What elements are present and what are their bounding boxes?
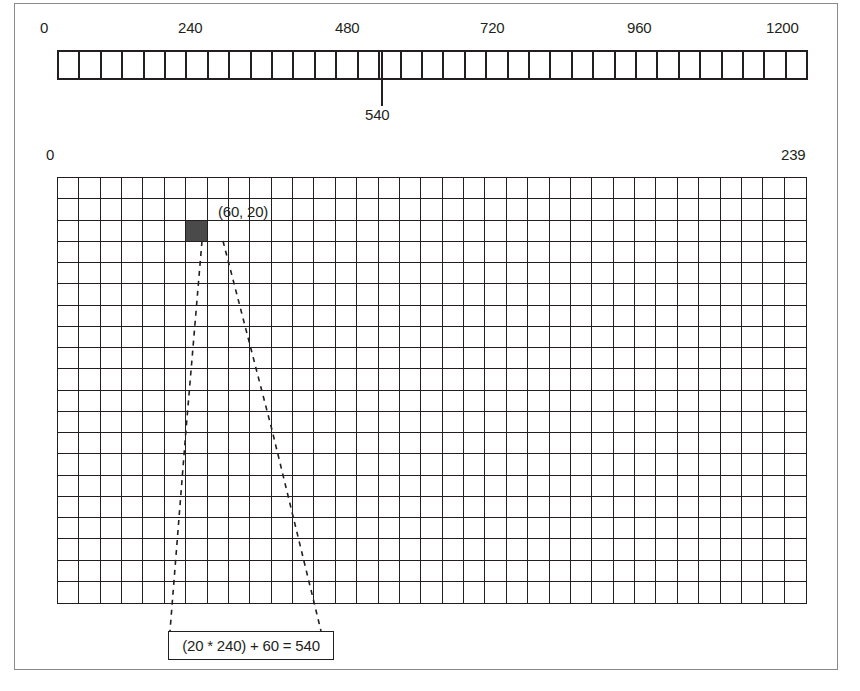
grid-cell bbox=[699, 327, 720, 348]
array-cell bbox=[252, 52, 273, 78]
grid-cell bbox=[678, 497, 699, 518]
grid-cell bbox=[101, 433, 122, 454]
grid-cell bbox=[272, 518, 293, 539]
array-cell bbox=[594, 52, 615, 78]
grid-cell bbox=[699, 221, 720, 242]
grid-cell bbox=[293, 242, 314, 263]
grid-cell bbox=[550, 327, 571, 348]
grid-cell bbox=[421, 476, 442, 497]
grid-cell bbox=[528, 391, 549, 412]
grid-cell bbox=[379, 221, 400, 242]
array-cell bbox=[59, 52, 80, 78]
grid-cell bbox=[314, 433, 335, 454]
grid-cell bbox=[186, 263, 207, 284]
grid-cell bbox=[293, 582, 314, 603]
grid-cell bbox=[592, 433, 613, 454]
grid-cell bbox=[421, 518, 442, 539]
grid-cell bbox=[721, 221, 742, 242]
grid-cell bbox=[208, 306, 229, 327]
grid-cell bbox=[699, 263, 720, 284]
array-cell bbox=[616, 52, 637, 78]
grid-cell bbox=[699, 539, 720, 560]
grid-cell bbox=[421, 348, 442, 369]
grid-cell bbox=[208, 518, 229, 539]
grid-cell bbox=[400, 476, 421, 497]
tick-label-240: 240 bbox=[178, 20, 202, 35]
grid-cell bbox=[785, 539, 806, 560]
formula-box: (20 * 240) + 60 = 540 bbox=[168, 631, 334, 660]
grid-cell bbox=[528, 263, 549, 284]
grid-cell bbox=[314, 561, 335, 582]
grid-cell bbox=[400, 221, 421, 242]
grid-cell bbox=[229, 284, 250, 305]
grid-cell bbox=[635, 242, 656, 263]
grid-cell bbox=[79, 327, 100, 348]
grid-cell bbox=[699, 412, 720, 433]
grid-cell bbox=[742, 412, 763, 433]
grid-cell bbox=[614, 476, 635, 497]
grid-cell bbox=[250, 582, 271, 603]
grid-cell bbox=[58, 391, 79, 412]
grid-cell bbox=[443, 178, 464, 199]
grid-cell bbox=[122, 539, 143, 560]
array-cell bbox=[294, 52, 315, 78]
grid-cell bbox=[742, 327, 763, 348]
grid-cell bbox=[336, 348, 357, 369]
grid-cell bbox=[272, 454, 293, 475]
grid-cell bbox=[336, 454, 357, 475]
grid-cell bbox=[400, 497, 421, 518]
grid-cell bbox=[721, 242, 742, 263]
grid-cell bbox=[592, 178, 613, 199]
grid-cell bbox=[314, 199, 335, 220]
grid-cell bbox=[656, 327, 677, 348]
grid-cell bbox=[122, 306, 143, 327]
grid-cell bbox=[272, 433, 293, 454]
grid-cell bbox=[785, 306, 806, 327]
grid-cell bbox=[58, 454, 79, 475]
array-cell bbox=[187, 52, 208, 78]
grid-cell bbox=[464, 539, 485, 560]
grid-cell bbox=[143, 433, 164, 454]
grid-cell bbox=[528, 369, 549, 390]
array-cell bbox=[680, 52, 701, 78]
grid-cell bbox=[58, 497, 79, 518]
grid-cell bbox=[357, 454, 378, 475]
grid-cell bbox=[250, 221, 271, 242]
grid-cell bbox=[357, 263, 378, 284]
grid-cell bbox=[464, 263, 485, 284]
grid-cell bbox=[464, 518, 485, 539]
grid-cell bbox=[443, 306, 464, 327]
grid-cell bbox=[400, 582, 421, 603]
grid-cell bbox=[122, 263, 143, 284]
grid-cell bbox=[421, 221, 442, 242]
array-cell bbox=[701, 52, 722, 78]
grid-cell bbox=[635, 348, 656, 369]
grid-cell bbox=[550, 391, 571, 412]
grid-cell bbox=[400, 454, 421, 475]
grid-cell bbox=[485, 412, 506, 433]
grid-cell bbox=[571, 539, 592, 560]
grid-cell bbox=[485, 391, 506, 412]
grid-cell bbox=[357, 433, 378, 454]
grid-cell bbox=[101, 391, 122, 412]
grid-cell bbox=[229, 433, 250, 454]
grid-cell bbox=[571, 284, 592, 305]
grid-cell bbox=[314, 518, 335, 539]
grid-cell bbox=[208, 242, 229, 263]
grid-cell bbox=[208, 582, 229, 603]
grid-cell bbox=[528, 582, 549, 603]
grid-cell bbox=[379, 199, 400, 220]
grid-cell bbox=[699, 178, 720, 199]
grid-cell bbox=[357, 539, 378, 560]
grid-cell bbox=[742, 306, 763, 327]
grid-cell bbox=[742, 518, 763, 539]
grid-cell bbox=[250, 539, 271, 560]
grid-cell bbox=[485, 263, 506, 284]
grid-cell bbox=[614, 539, 635, 560]
grid-cell bbox=[272, 306, 293, 327]
grid-cell bbox=[421, 327, 442, 348]
grid-cell bbox=[635, 497, 656, 518]
grid-cell bbox=[122, 412, 143, 433]
grid-cell bbox=[550, 539, 571, 560]
grid-cell bbox=[763, 518, 784, 539]
